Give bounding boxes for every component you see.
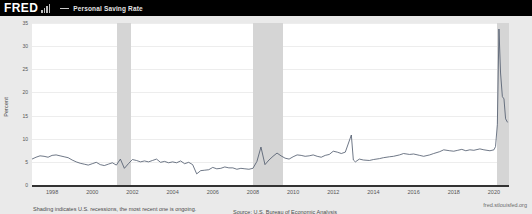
plot-canvas: [32, 23, 509, 185]
source-note: Source: U.S. Bureau of Economic Analysis: [233, 209, 337, 214]
chart-area: Percent 05101520253035 19982000200220042…: [0, 16, 532, 214]
x-axis-tick-label: 2020: [474, 189, 514, 195]
x-axis-tick-label: 2002: [112, 189, 152, 195]
x-axis-tick-label: 2014: [353, 189, 393, 195]
x-axis-tick-label: 2010: [273, 189, 313, 195]
line-sample-icon: [60, 8, 69, 9]
fred-header-bar: FRED Personal Saving Rate: [0, 0, 532, 16]
y-axis-tick-label: 15: [2, 113, 28, 119]
x-axis-tick-label: 2012: [313, 189, 353, 195]
y-axis-tick-label: 5: [2, 159, 28, 165]
recession-shading-note: Shading indicates U.S. recessions, the m…: [33, 206, 223, 213]
y-axis-tick-label: 10: [2, 136, 28, 142]
legend-series-label: Personal Saving Rate: [73, 5, 142, 12]
x-axis-tick-label: 2004: [153, 189, 193, 195]
chart-legend: Personal Saving Rate: [60, 5, 142, 12]
x-axis-tick-label: 1998: [32, 189, 72, 195]
fred-attribution[interactable]: fred.stlouisfed.org: [483, 202, 527, 208]
y-axis-tick-label: 20: [2, 89, 28, 95]
y-axis-tick-label: 30: [2, 43, 28, 49]
x-axis-tick-label: 2016: [394, 189, 434, 195]
y-axis-tick-label: 35: [2, 20, 28, 26]
x-axis-tick-label: 2018: [434, 189, 474, 195]
fred-logo[interactable]: FRED: [4, 2, 38, 14]
fred-chart-screenshot: FRED Personal Saving Rate Percent 051015…: [0, 0, 532, 214]
x-axis-line: [32, 185, 509, 187]
series-line-personal-saving-rate: [32, 23, 509, 185]
x-axis-tick-label: 2006: [193, 189, 233, 195]
y-axis-tick-label: 25: [2, 66, 28, 72]
x-axis-tick-label: 2008: [233, 189, 273, 195]
x-axis-tick-label: 2000: [72, 189, 112, 195]
bar-chart-icon: [41, 4, 51, 13]
y-axis-tick-label: 0: [2, 182, 28, 188]
